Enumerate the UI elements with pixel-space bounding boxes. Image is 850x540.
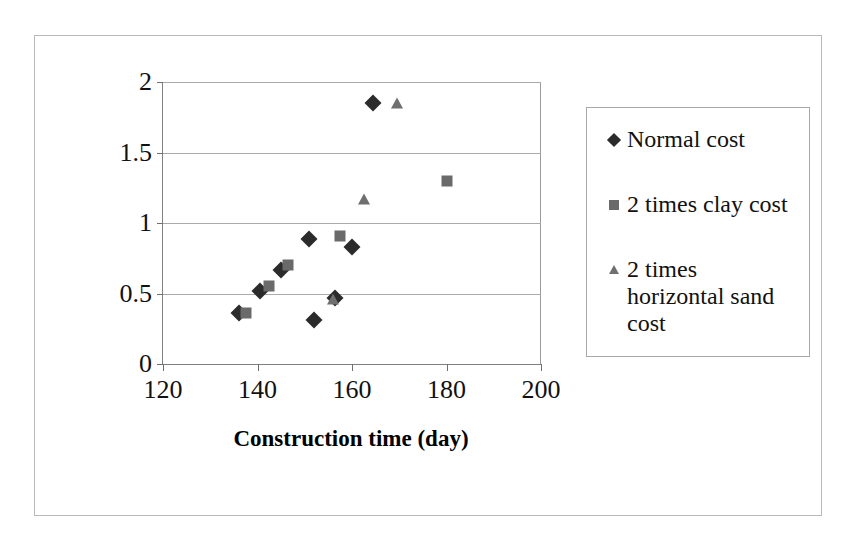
legend-item-normal-cost: Normal cost <box>601 126 799 153</box>
data-point-square <box>240 308 251 319</box>
data-point-square <box>335 230 346 241</box>
y-tick-mark <box>157 223 163 224</box>
y-tick-mark <box>157 82 163 83</box>
legend-label: 2 times clay cost <box>627 191 788 218</box>
legend-item-2-times-clay-cost: 2 times clay cost <box>601 191 799 218</box>
legend-square-icon <box>601 191 627 210</box>
scatter-chart: Clay layer thickness (m) 00.511.52 12014… <box>35 36 823 517</box>
x-tick-label: 180 <box>427 377 466 403</box>
data-point-triangle <box>358 194 370 205</box>
legend-triangle-icon <box>601 256 627 274</box>
y-tick-label: 0 <box>139 351 152 377</box>
gridline <box>163 153 541 154</box>
gridline <box>163 223 541 224</box>
x-tick-mark <box>258 364 259 371</box>
data-point-square <box>264 281 275 292</box>
x-tick-label: 160 <box>333 377 372 403</box>
data-point-square <box>441 175 452 186</box>
data-point-diamond <box>301 230 318 247</box>
x-tick-mark <box>447 364 448 371</box>
data-point-diamond <box>306 312 323 329</box>
x-tick-mark <box>163 364 164 371</box>
data-point-square <box>283 260 294 271</box>
x-tick-mark <box>541 364 542 371</box>
y-tick-label: 1 <box>139 210 152 236</box>
y-tick-label: 1.5 <box>120 140 153 166</box>
x-axis-title: Construction time (day) <box>162 426 540 452</box>
data-point-triangle <box>327 294 339 305</box>
data-point-triangle <box>391 98 403 109</box>
gridline <box>163 82 541 83</box>
x-tick-mark <box>352 364 353 371</box>
legend-diamond-icon <box>601 126 627 145</box>
data-point-diamond <box>344 238 361 255</box>
x-tick-label: 140 <box>238 377 277 403</box>
y-tick-label: 0.5 <box>120 281 153 307</box>
chart-legend: Normal cost 2 times clay cost 2 times ho… <box>586 107 810 357</box>
legend-label: Normal cost <box>627 126 745 153</box>
data-point-diamond <box>365 95 382 112</box>
legend-label: 2 times horizontal sand cost <box>627 256 799 337</box>
gridline <box>163 294 541 295</box>
plot-area: 00.511.52 120140160180200 <box>162 82 541 365</box>
legend-item-2-times-horizontal-sand-cost: 2 times horizontal sand cost <box>601 256 799 337</box>
x-tick-label: 200 <box>522 377 561 403</box>
y-tick-mark <box>157 153 163 154</box>
x-tick-label: 120 <box>144 377 183 403</box>
figure-frame: Clay layer thickness (m) 00.511.52 12014… <box>34 35 822 516</box>
y-tick-label: 2 <box>139 69 152 95</box>
y-tick-mark <box>157 294 163 295</box>
